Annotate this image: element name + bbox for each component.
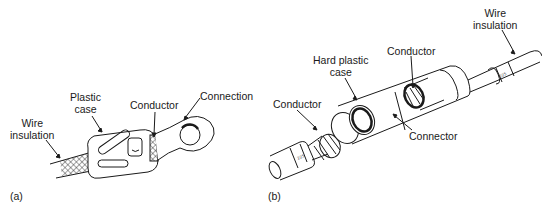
label-hard-plastic-case-b: Hard plastic case (313, 54, 368, 78)
label-line: Wire (473, 7, 517, 19)
label-plastic-case-a: Plastic case (70, 91, 101, 115)
label-line: Wire (10, 117, 54, 129)
leader-connector-b (395, 116, 412, 130)
ring-connection-a (155, 116, 214, 160)
label-line: insulation (473, 19, 517, 31)
leader-wire-insulation-b (502, 30, 514, 52)
label-connector-b: Connector (409, 130, 457, 142)
label-conductor-a: Conductor (130, 99, 178, 111)
label-line: Plastic (70, 91, 101, 103)
diagram-figure: 225 (0, 0, 542, 214)
label-conductor-top-b: Conductor (387, 45, 435, 57)
leader-connection-a (185, 98, 200, 118)
leader-conductor-top-b (411, 56, 413, 86)
plastic-case-a (88, 128, 158, 178)
label-line: insulation (10, 129, 54, 141)
label-connection-a: Connection (200, 90, 253, 102)
label-line: case (70, 103, 101, 115)
leader-conductor-left-b (297, 110, 316, 128)
label-line: case (313, 66, 368, 78)
panel-b-tag: (b) (268, 190, 281, 202)
panel-a-tag: (a) (10, 190, 23, 202)
leader-conductor-a (154, 112, 155, 135)
wire-insulation-b-left: 225 (267, 142, 315, 181)
label-wire-insulation-b: Wire insulation (473, 7, 517, 31)
leader-hard-plastic-case-b (345, 78, 356, 98)
label-conductor-left-b: Conductor (273, 98, 321, 110)
label-line: Hard plastic (313, 54, 368, 66)
label-wire-insulation-a: Wire insulation (10, 117, 54, 141)
conductor-b-inner (401, 78, 444, 111)
wire-insulation-b-right: 225 (468, 51, 542, 92)
